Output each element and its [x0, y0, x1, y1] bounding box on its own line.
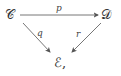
label-r: r: [76, 30, 80, 39]
node-c: 𝒞: [5, 8, 14, 21]
node-e: ℰ,: [54, 56, 66, 69]
node-d: 𝒟: [101, 8, 111, 21]
label-q: q: [37, 29, 43, 38]
label-p: p: [56, 4, 62, 13]
